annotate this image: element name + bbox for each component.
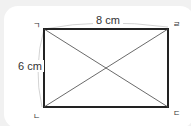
vertex-bottom-left: ㄴ (33, 112, 40, 121)
vertex-top-right: ㄹ (173, 20, 180, 29)
vertex-bottom-right: ㄷ (173, 109, 180, 118)
height-label: 6 cm (18, 60, 42, 72)
vertex-top-left: ㄱ (33, 21, 40, 30)
rectangle-diagram: 8 cm 6 cm ㄱ ㄹ ㄴ ㄷ (0, 0, 191, 126)
width-label: 8 cm (96, 14, 120, 26)
